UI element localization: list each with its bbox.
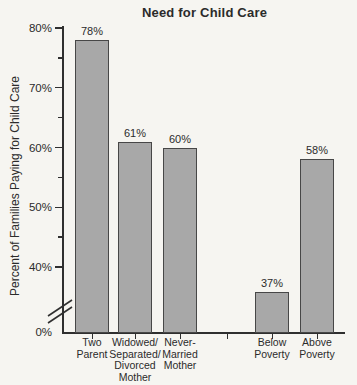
bar-chart-figure: Need for Child Care Percent of Families … <box>0 0 357 385</box>
bar-value-label: 60% <box>158 132 202 146</box>
y-tick <box>55 147 62 148</box>
chart-title: Need for Child Care <box>62 5 347 20</box>
axis-break-icon <box>46 296 80 330</box>
y-tick <box>55 87 62 88</box>
bar-value-label: 58% <box>295 143 339 157</box>
y-tick-label: 70% <box>12 81 52 95</box>
y-tick <box>55 27 62 28</box>
y-minor-tick <box>58 57 62 58</box>
y-minor-tick <box>58 177 62 178</box>
category-label-line: Poverty <box>281 349 353 361</box>
y-tick <box>55 266 62 267</box>
bar <box>118 142 152 333</box>
y-tick-label: 50% <box>12 200 52 214</box>
category-label-line: Never- <box>144 337 216 349</box>
category-label-line: Mother <box>144 360 216 372</box>
bar-value-label: 37% <box>250 276 294 290</box>
y-axis-line <box>62 26 64 334</box>
y-minor-tick <box>58 236 62 237</box>
category-label-line: Mother <box>99 372 171 384</box>
y-tick-label: 80% <box>12 21 52 35</box>
y-minor-tick <box>58 117 62 118</box>
bar <box>255 292 289 333</box>
y-tick-label: 60% <box>12 141 52 155</box>
bar <box>163 148 197 334</box>
y-tick-label: 40% <box>12 260 52 274</box>
category-label-line: Above <box>281 337 353 349</box>
category-label: AbovePoverty <box>281 337 353 360</box>
bar-value-label: 61% <box>113 126 157 140</box>
bar <box>75 40 109 333</box>
group-separator-tick <box>227 334 228 340</box>
category-label: Never-MarriedMother <box>144 337 216 372</box>
bar <box>300 159 334 333</box>
bar-value-label: 78% <box>70 24 114 38</box>
y-tick <box>55 207 62 208</box>
